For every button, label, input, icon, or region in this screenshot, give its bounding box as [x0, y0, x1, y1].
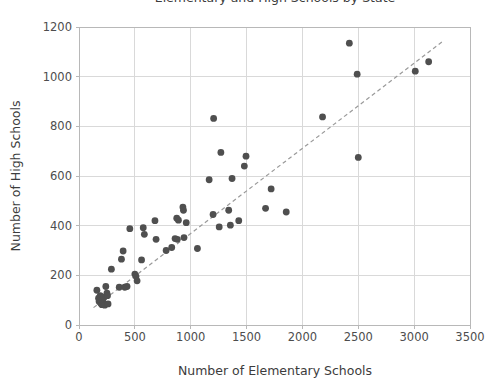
data-point: 455, 388: [126, 225, 133, 232]
data-point: 430, 155: [124, 283, 131, 290]
data-point: 290, 225: [108, 266, 115, 273]
data-point: 2490, 1010: [354, 71, 361, 78]
data-point: 3130, 1060: [425, 58, 432, 65]
y-tick-label: 600: [50, 169, 72, 183]
chart-title: Elementary and High Schools by State: [155, 0, 396, 5]
data-point: 940, 352: [181, 234, 188, 241]
data-point: 1165, 585: [206, 176, 213, 183]
data-point: 240, 155: [102, 283, 109, 290]
data-point: 1370, 590: [229, 175, 236, 182]
x-axis-title: Number of Elementary Schools: [178, 363, 372, 378]
data-point: 1720, 548: [268, 186, 275, 193]
data-point: 2420, 1135: [346, 40, 353, 47]
data-point: 1270, 695: [217, 149, 224, 156]
data-point: 395, 298: [120, 248, 127, 255]
data-point: 1495, 680: [243, 153, 250, 160]
data-point: 380, 265: [118, 256, 125, 263]
data-point: 1355, 402: [227, 222, 234, 229]
data-point: 2500, 675: [355, 154, 362, 161]
data-point: 1670, 470: [262, 205, 269, 212]
data-point: 1430, 420: [235, 217, 242, 224]
x-tick-label: 0: [75, 330, 82, 344]
data-point: 2180, 838: [319, 113, 326, 120]
data-point: 560, 262: [138, 257, 145, 264]
data-point: 1855, 455: [283, 209, 290, 216]
data-point: 520, 178: [134, 277, 141, 284]
x-tick-label: 1500: [232, 330, 261, 344]
data-point: 3010, 1022: [412, 68, 419, 75]
y-tick-label: 800: [50, 119, 72, 133]
chart-canvas: 0200400600800100012000500100015002000250…: [0, 0, 501, 388]
scatter-plot-figure: 0200400600800100012000500100015002000250…: [0, 0, 501, 388]
data-point: 880, 345: [174, 236, 181, 243]
data-point: 1480, 640: [241, 163, 248, 170]
x-tick-label: 2500: [344, 330, 373, 344]
y-tick-label: 200: [50, 268, 72, 282]
x-tick-label: 1000: [176, 330, 205, 344]
data-point: 255, 118: [104, 292, 111, 299]
data-point: 1205, 832: [210, 115, 217, 122]
data-point: 690, 345: [153, 236, 160, 243]
y-tick-label: 400: [50, 219, 72, 233]
x-tick-label: 2000: [288, 330, 317, 344]
x-tick-label: 500: [124, 330, 146, 344]
data-point: 830, 312: [168, 244, 175, 251]
data-point: 935, 462: [180, 207, 187, 214]
y-tick-label: 0: [65, 318, 72, 332]
x-tick-label: 3500: [455, 330, 484, 344]
y-tick-label: 1000: [43, 70, 72, 84]
data-point: 960, 412: [183, 219, 190, 226]
data-point: 680, 420: [152, 217, 159, 224]
data-point: 1200, 445: [210, 211, 217, 218]
data-point: 1340, 462: [225, 207, 232, 214]
data-point: 890, 422: [175, 217, 182, 224]
y-tick-label: 1200: [43, 20, 72, 34]
data-point: 1060, 308: [194, 245, 201, 252]
data-point: 260, 85: [105, 300, 112, 307]
data-point: 575, 392: [140, 224, 147, 231]
data-point: 1255, 395: [216, 224, 223, 231]
y-axis-title: Number of High Schools: [8, 101, 23, 252]
data-point: 585, 365: [141, 231, 148, 238]
x-tick-label: 3000: [400, 330, 429, 344]
